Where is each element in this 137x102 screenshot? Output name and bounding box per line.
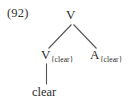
tree-node-root: V xyxy=(66,8,75,24)
tree-node-left-child-subscript: {clear} xyxy=(51,55,73,64)
branch-root-to-right-child xyxy=(74,25,97,49)
tree-node-right-child: A{clear} xyxy=(90,48,122,64)
tree-leaf-word: clear xyxy=(32,85,56,99)
tree-node-left-child-category: V xyxy=(41,47,50,62)
tree-node-left-child: V{clear} xyxy=(41,48,73,64)
tree-node-right-child-category: A xyxy=(90,47,99,62)
syntax-tree-figure: (92) V V{clear} A{clear} clear xyxy=(0,0,137,102)
tree-node-right-child-subscript: {clear} xyxy=(100,55,122,64)
branch-root-to-left-child xyxy=(49,25,72,49)
tree-node-root-category: V xyxy=(66,7,75,22)
